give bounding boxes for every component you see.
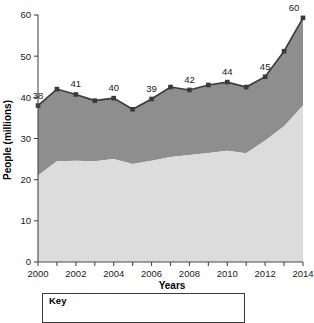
x-tick-label: 2002 [65,268,86,279]
data-point-marker [74,92,79,97]
data-point-label: 42 [184,74,195,85]
data-point-label: 41 [71,78,82,89]
data-point-marker [92,98,97,103]
x-axis: 20002002200420062008201020122014 [27,262,313,279]
y-tick-label: 40 [20,92,31,103]
data-point-label: 45 [260,61,271,72]
y-tick-label: 10 [20,215,31,226]
data-point-label: 60 [289,2,300,13]
y-tick-label: 30 [20,133,31,144]
data-point-marker [206,83,211,88]
plot-areas [38,18,303,262]
legend-key-box: Key [42,293,245,323]
x-tick-label: 2010 [217,268,238,279]
x-tick-label: 2004 [103,268,124,279]
data-point-marker [55,87,60,92]
y-tick-label: 0 [26,256,31,267]
x-axis-title: Years [159,280,186,291]
data-point-marker [263,74,268,79]
x-tick-label: 2008 [179,268,200,279]
data-point-marker [130,107,135,112]
data-point-label: 38 [33,90,44,101]
data-point-marker [225,80,230,85]
x-tick-label: 2006 [141,268,162,279]
data-point-marker [301,16,306,21]
data-point-label: 40 [108,82,119,93]
legend-title: Key [49,295,66,306]
data-point-marker [244,85,249,90]
data-point-label: 39 [146,83,157,94]
y-tick-label: 50 [20,51,31,62]
x-tick-label: 2014 [292,268,313,279]
data-point-marker [282,49,287,54]
data-point-marker [149,97,154,102]
x-tick-label: 2000 [27,268,48,279]
data-point-marker [187,88,192,93]
y-axis-title: People (millions) [2,100,13,180]
data-point-marker [111,96,116,101]
data-point-marker [168,85,173,90]
y-axis: 0102030405060 [20,9,38,267]
y-tick-label: 60 [20,9,31,20]
x-tick-label: 2012 [255,268,276,279]
data-point-label: 44 [222,66,233,77]
y-tick-label: 20 [20,174,31,185]
